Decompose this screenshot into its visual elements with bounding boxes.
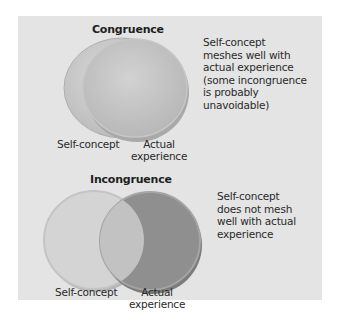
congruence-experience-label-1: Actual (142, 138, 176, 150)
congruence-experience-label-2: experience (131, 150, 187, 162)
incongruence-experience-label-1: Actual (140, 286, 174, 298)
congruence-description: Self-concept meshes well with actual exp… (203, 36, 307, 111)
incongruence-self-concept-label: Self-concept (55, 286, 117, 298)
incongruence-description: Self-concept does not mesh well with act… (217, 190, 296, 240)
congruence-self-concept-label: Self-concept (57, 138, 119, 150)
incongruence-experience-label-2: experience (129, 298, 185, 310)
actual-experience-circle (83, 39, 187, 137)
